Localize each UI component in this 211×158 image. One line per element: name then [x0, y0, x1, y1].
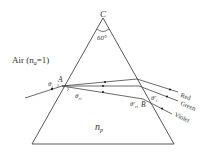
internal-ray-red [62, 79, 137, 86]
ray-label-violet: Violet [174, 111, 192, 124]
red-arrow-in [104, 81, 106, 83]
refracted-angle-label: θri [75, 92, 82, 101]
red-arrow-out [169, 88, 171, 90]
apex-angle-label: 60° [97, 34, 107, 42]
medium-label: Air (na=1) [12, 55, 49, 66]
green-arrow-out [166, 95, 168, 97]
incident-angle-label: θi [48, 80, 53, 89]
incident-ray [25, 86, 62, 98]
internal-exit-angle-label: θ'ri [130, 100, 139, 109]
violet-arrow-out [161, 107, 163, 109]
ray-label-green: Green [180, 99, 198, 112]
point-a-label: A [57, 75, 63, 84]
green-arrow-in [102, 85, 104, 87]
exit-ray-green [139, 86, 178, 101]
refracted-angle-arc [67, 87, 68, 91]
apex-angle-arc [97, 29, 109, 32]
prism-index-label: np [95, 121, 103, 133]
exit-ray-violet [143, 99, 172, 114]
exit-angle-label: θ'i [151, 94, 158, 103]
prism-diagram: C 60° Air (na=1) Red Green Violet A B θi… [0, 0, 211, 158]
violet-arrow-in [102, 91, 104, 93]
apex-label: C [100, 9, 107, 19]
point-b-label: B [141, 100, 146, 109]
